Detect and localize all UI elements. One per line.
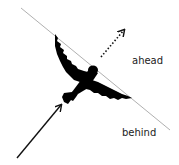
behind-label: behind xyxy=(122,128,156,138)
bird-direction-diagram xyxy=(0,0,179,165)
heading-arrow xyxy=(101,30,124,57)
bird-icon xyxy=(55,34,132,104)
incoming-arrow xyxy=(17,105,61,158)
ahead-label: ahead xyxy=(132,56,163,66)
